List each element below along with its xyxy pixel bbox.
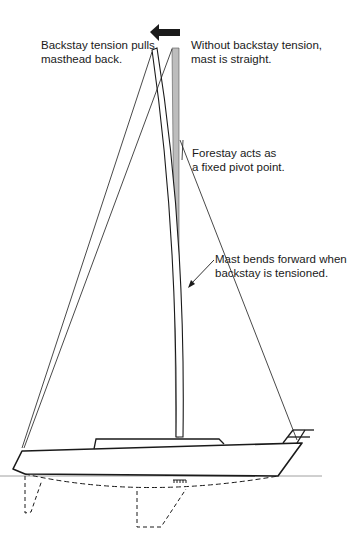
label-backstay-tension: Backstay tension pulls masthead back.	[41, 38, 155, 66]
label-without-tension-line2: mast is straight.	[191, 52, 322, 66]
label-backstay-tension-line1: Backstay tension pulls	[41, 38, 155, 52]
label-mast-bends: Mast bends forward when backstay is tens…	[215, 252, 347, 280]
forestay-line	[180, 140, 297, 440]
label-forestay-pivot: Forestay acts as a fixed pivot point.	[192, 146, 285, 174]
label-forestay-pivot-line2: a fixed pivot point.	[192, 160, 285, 174]
label-forestay-pivot-line1: Forestay acts as	[192, 146, 285, 160]
label-mast-bends-line1: Mast bends forward when	[215, 252, 347, 266]
label-without-tension: Without backstay tension, mast is straig…	[191, 38, 322, 66]
rudder	[25, 476, 42, 513]
label-mast-bends-line2: backstay is tensioned.	[215, 266, 347, 280]
label-backstay-tension-line2: masthead back.	[41, 52, 155, 66]
hull	[13, 443, 302, 476]
keel	[137, 489, 186, 527]
backstay-lines	[22, 49, 172, 448]
pointer-arrow-icon	[188, 260, 214, 288]
label-without-tension-line1: Without backstay tension,	[191, 38, 322, 52]
pulpit-rail-icon	[283, 430, 314, 443]
mast-step-icon	[173, 480, 186, 483]
